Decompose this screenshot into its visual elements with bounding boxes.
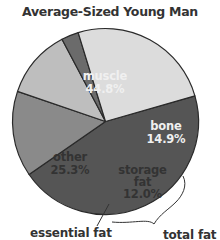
slice-label-bone: bone 14.9% [141, 120, 191, 146]
annotation-essential-fat: essential fat [30, 226, 112, 240]
annotation-total-fat: total fat [163, 228, 216, 240]
muscle-percent: 44.8% [70, 83, 140, 96]
slice-label-other: other 25.3% [40, 151, 100, 177]
slice-label-storage-fat: storage fat 12.0% [115, 164, 170, 200]
bone-percent: 14.9% [141, 133, 191, 146]
other-percent: 25.3% [40, 164, 100, 177]
storage-fat-percent: 12.0% [115, 188, 170, 200]
slice-label-muscle: muscle 44.8% [70, 70, 140, 96]
